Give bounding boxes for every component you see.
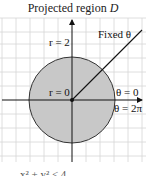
label-r-0: r = 0 [49, 86, 70, 98]
label-r-2: r = 2 [49, 36, 70, 48]
label-theta-0: θ = 0 [116, 86, 139, 98]
label-theta-2pi: θ = 2π [114, 102, 142, 114]
footer-partial-text: x² + y² ≤ 4 [20, 168, 66, 176]
origin-dot [70, 98, 74, 102]
label-fixed-theta: Fixed θ [98, 28, 131, 40]
polar-region-diagram: r = 2 r = 0 Fixed θ θ = 0 θ = 2π [0, 0, 146, 176]
